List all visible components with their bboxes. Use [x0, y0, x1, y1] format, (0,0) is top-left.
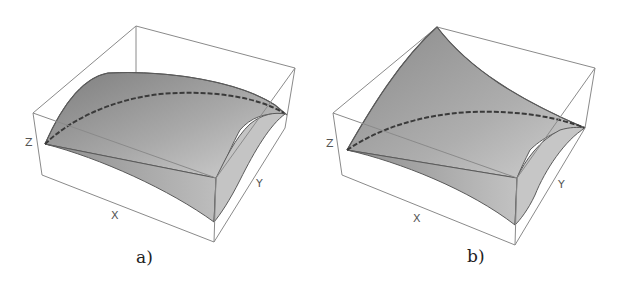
z-axis-label: Z	[25, 136, 33, 149]
figure-canvas: Z X Y a) Z X Y b)	[0, 0, 626, 281]
y-axis-label: Y	[255, 177, 263, 190]
panel-a: Z X Y a)	[25, 26, 295, 267]
x-axis-label: X	[111, 209, 119, 222]
z-axis-label: Z	[326, 137, 334, 150]
panel-caption: b)	[467, 246, 485, 266]
y-axis-label: Y	[557, 178, 565, 191]
panel-caption: a)	[136, 247, 153, 267]
panel-b: Z X Y b)	[326, 27, 595, 266]
x-axis-label: X	[413, 212, 421, 225]
